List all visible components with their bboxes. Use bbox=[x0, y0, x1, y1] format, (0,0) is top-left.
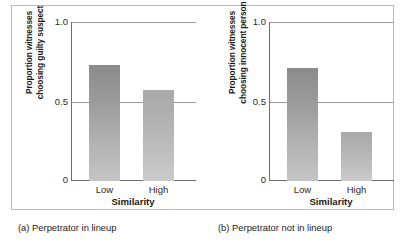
bar-low-b bbox=[287, 68, 318, 181]
x-tick-label-high-b: High bbox=[341, 184, 372, 195]
chart-panel-b: Proportion witnesses choosing innocent p… bbox=[200, 0, 400, 250]
bar-slot-low-b bbox=[287, 22, 318, 181]
x-axis-title-b: Similarity bbox=[269, 196, 393, 207]
panel-caption-a: (a) Perpetrator in lineup bbox=[18, 222, 117, 233]
y-axis-title-b: Proportion witnesses choosing innocent p… bbox=[227, 0, 248, 133]
plot-area-b: 1.0 0.5 0 Low High bbox=[269, 22, 394, 181]
plot-area-a: 1.0 0.5 0 Low High bbox=[71, 22, 196, 181]
bar-low-a bbox=[89, 65, 120, 181]
x-tick-label-low-b: Low bbox=[287, 184, 318, 195]
panel-caption-b: (b) Perpetrator not in lineup bbox=[218, 222, 332, 233]
bar-high-b bbox=[341, 132, 372, 181]
y-tick-label-0.5-a: 0.5 bbox=[55, 96, 68, 107]
x-tick-label-low-a: Low bbox=[89, 184, 120, 195]
bar-slot-high-b bbox=[341, 22, 372, 181]
bar-slot-low-a bbox=[89, 22, 120, 181]
y-tick-label-0-a: 0 bbox=[63, 174, 68, 185]
x-tick-label-high-a: High bbox=[143, 184, 174, 195]
y-tick-label-1.0-a: 1.0 bbox=[55, 16, 68, 27]
chart-panel-a: Proportion witnesses choosing guilty sus… bbox=[0, 0, 200, 250]
y-tick-label-0-b: 0 bbox=[261, 174, 266, 185]
y-axis-title-a: Proportion witnesses choosing guilty sus… bbox=[24, 0, 45, 133]
x-axis-title-a: Similarity bbox=[71, 196, 195, 207]
y-tick-label-1.0-b: 1.0 bbox=[253, 16, 266, 27]
y-tick-label-0.5-b: 0.5 bbox=[253, 96, 266, 107]
bar-high-a bbox=[143, 90, 174, 181]
bar-group-b bbox=[270, 22, 394, 181]
bar-slot-high-a bbox=[143, 22, 174, 181]
figure-container: Proportion witnesses choosing guilty sus… bbox=[0, 0, 400, 250]
bar-group-a bbox=[72, 22, 196, 181]
